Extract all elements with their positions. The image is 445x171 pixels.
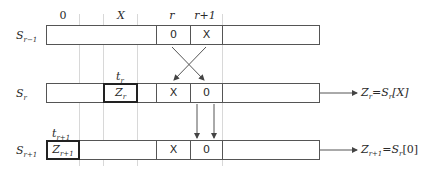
eq-lhs-sub: r+1 bbox=[369, 150, 383, 158]
eq-sign: = bbox=[372, 86, 381, 99]
output-equation-z-r: Zr=Sr[X] bbox=[361, 86, 409, 101]
eq-sign: = bbox=[382, 143, 391, 156]
output-equation-z-r-plus-1: Zr+1=Sr[0] bbox=[361, 143, 418, 158]
eq-index: [0] bbox=[402, 143, 418, 156]
swap-arrow-left bbox=[172, 46, 174, 82]
eq-rhs: S bbox=[392, 143, 400, 156]
eq-lhs: Z bbox=[361, 86, 369, 99]
eq-rhs: S bbox=[381, 86, 389, 99]
eq-lhs: Z bbox=[361, 143, 369, 156]
eq-index: [X] bbox=[392, 86, 408, 99]
